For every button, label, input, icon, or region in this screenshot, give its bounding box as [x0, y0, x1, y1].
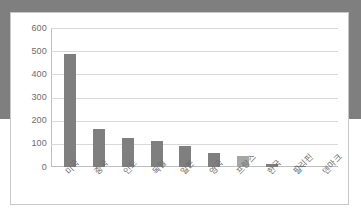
bar-미국[interactable] [64, 54, 76, 167]
y-tick-label: 400 [31, 70, 47, 79]
chart-frame: 600 500 400 300 200 100 0 [10, 12, 349, 205]
y-tick-label: 300 [31, 93, 47, 102]
bars-layer [51, 28, 338, 167]
bar-chart: 600 500 400 300 200 100 0 [0, 0, 361, 119]
y-tick-label: 100 [31, 139, 47, 148]
y-tick-label: 500 [31, 47, 47, 56]
x-axis-tick-labels: 미국 중국 인도 독일 일본 영국 프랑스 한국 필리핀 덴마크 [51, 167, 338, 212]
y-tick-label: 200 [31, 116, 47, 125]
y-axis-tick-labels: 600 500 400 300 200 100 0 [11, 28, 47, 167]
y-tick-label: 0 [42, 163, 47, 172]
plot-area [51, 28, 338, 167]
y-tick-label: 600 [31, 24, 47, 33]
